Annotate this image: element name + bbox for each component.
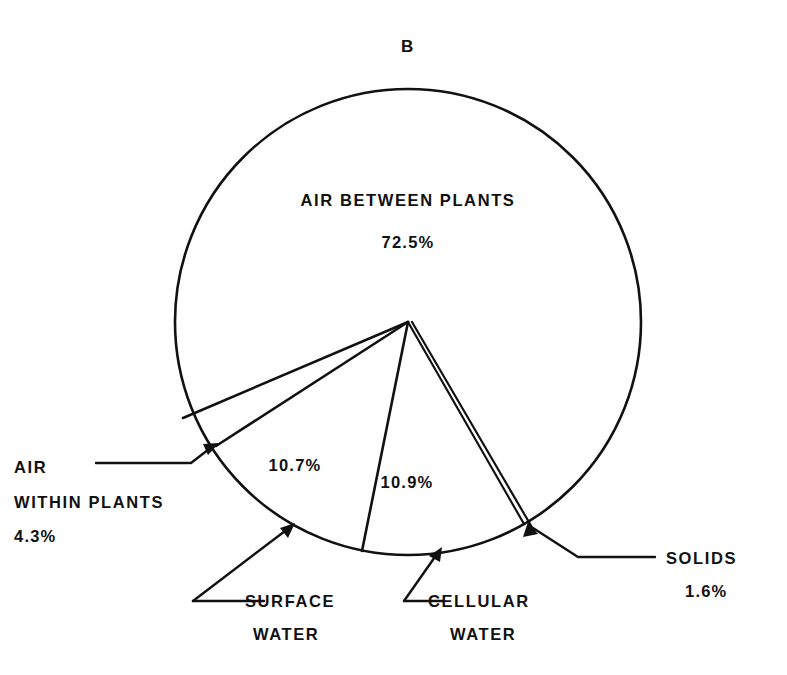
pie-chart-svg: B AIR BETWEEN PLANTS 72.5% 10.7% 10.9% A…: [0, 0, 787, 675]
callout-cellular-water: CELLULAR WATER: [404, 547, 530, 643]
callout-surface-water: SURFACE WATER: [193, 523, 335, 643]
slice-label-cellular-water-line2: WATER: [450, 625, 516, 643]
slice-label-surface-water-line2: WATER: [253, 625, 319, 643]
wedge-edge-cellular-water-solids: [408, 322, 524, 524]
slice-value-air-within-plants: 4.3%: [14, 527, 56, 545]
slice-label-cellular-water-line1: CELLULAR: [428, 592, 530, 610]
panel-label-b: B: [401, 37, 415, 56]
callout-solids: SOLIDS 1.6%: [523, 522, 737, 600]
leader-line-surface-water-diagonal: [193, 528, 289, 601]
slice-value-cellular-water: 10.9%: [381, 473, 434, 491]
wedge-edge-air-between-air-within: [183, 322, 408, 418]
slice-value-air-between-plants: 72.5%: [382, 233, 435, 251]
slice-label-air-between-plants: AIR BETWEEN PLANTS: [301, 191, 516, 209]
pie-chart-figure: B AIR BETWEEN PLANTS 72.5% 10.7% 10.9% A…: [0, 0, 787, 675]
slice-label-air-within-plants-line1: AIR: [14, 458, 47, 476]
slice-label-air-within-plants-line2: WITHIN PLANTS: [14, 493, 164, 511]
callout-air-within-plants: AIR WITHIN PLANTS 4.3%: [14, 443, 219, 545]
wedge-edge-air-within-surface-water: [216, 322, 408, 446]
leader-line-solids: [533, 528, 655, 557]
arrowhead-surface-water: [280, 523, 295, 538]
slice-label-surface-water-line1: SURFACE: [245, 592, 335, 610]
wedge-edge-surface-water-cellular-water: [362, 322, 408, 551]
slice-label-solids: SOLIDS: [666, 549, 737, 567]
leader-line-air-within-plants: [96, 446, 213, 463]
slice-value-solids: 1.6%: [685, 582, 727, 600]
slice-value-surface-water: 10.7%: [269, 456, 322, 474]
wedge-edge-solids-air-between: [412, 322, 533, 529]
